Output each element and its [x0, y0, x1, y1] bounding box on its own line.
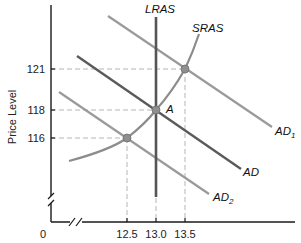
- x-tick-origin: 0: [40, 228, 46, 240]
- equilibrium-point-ad2: [123, 134, 131, 142]
- ad-as-chart: 121 118 116 0 12.5 13.0 13.5 Price Level…: [0, 0, 301, 243]
- y-tick-116: 116: [27, 132, 45, 144]
- x-axis-break: [69, 218, 82, 226]
- lras-label: LRAS: [145, 3, 175, 15]
- x-tick-13-0: 13.0: [145, 228, 166, 240]
- ad1-label: AD1: [274, 125, 295, 140]
- x-tick-12-5: 12.5: [116, 228, 137, 240]
- equilibrium-point-a: [152, 106, 160, 114]
- sras-label: SRAS: [192, 22, 224, 34]
- ad-label: AD: [242, 166, 259, 178]
- y-tick-118: 118: [27, 104, 45, 116]
- y-axis-label: Price Level: [6, 90, 18, 144]
- x-tick-13-5: 13.5: [174, 228, 195, 240]
- y-tick-121: 121: [27, 63, 45, 75]
- guide-lines: [51, 69, 185, 222]
- ad2-label: AD2: [212, 191, 234, 206]
- point-a-label: A: [165, 103, 174, 115]
- equilibrium-point-ad1: [181, 65, 189, 73]
- ad2-curve: [59, 92, 209, 194]
